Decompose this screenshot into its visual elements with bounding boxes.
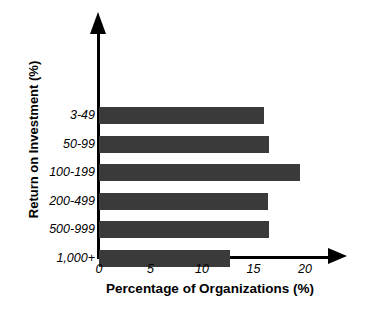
x-tick-label: 5 [134, 262, 168, 276]
category-label: 500-999 [1, 222, 95, 236]
category-label: 1,000+ [1, 251, 95, 265]
plot-area [99, 18, 345, 258]
y-axis-category-labels: 3-4950-99100-199200-499500-9991,000+ [0, 0, 95, 312]
bar-chart: Return on Investment (%) 3-4950-99100-19… [0, 0, 371, 312]
category-label: 200-499 [1, 194, 95, 208]
x-tick-label: 10 [185, 262, 219, 276]
x-axis-title: Percentage of Organizations (%) [60, 281, 360, 296]
bar [99, 164, 300, 181]
bar [99, 136, 269, 153]
category-label: 50-99 [1, 137, 95, 151]
x-tick-label: 0 [82, 262, 116, 276]
bar [99, 107, 264, 124]
category-label: 100-199 [1, 165, 95, 179]
bar [99, 193, 268, 210]
bar [99, 221, 269, 238]
x-tick-label: 20 [288, 262, 322, 276]
x-tick-label: 15 [237, 262, 271, 276]
category-label: 3-49 [1, 108, 95, 122]
